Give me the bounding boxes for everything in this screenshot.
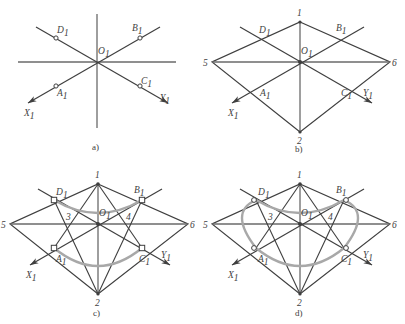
panel-d-label-b1: B1 <box>336 185 347 198</box>
panel-b-label-d1: D1 <box>258 25 271 38</box>
panel-b-rhombus <box>212 22 390 132</box>
panel-d-label-1: 1 <box>297 170 302 180</box>
panel-d-label-6: 6 <box>392 220 397 230</box>
panel-c-caption: c) <box>93 308 100 318</box>
panel-c: 1 2 5 6 3 4 D1 B1 A1 C1 O1 X1 Y1 c) <box>1 170 195 318</box>
panel-d-label-3: 3 <box>267 212 273 222</box>
panel-b-label-o1: O1 <box>301 46 313 59</box>
panel-c-label-1: 1 <box>95 170 100 180</box>
panel-d: 1 2 5 6 3 4 D1 B1 A1 C1 O1 X1 Y1 d) <box>203 170 397 318</box>
panel-c-label-x1: X1 <box>25 270 37 283</box>
panel-c-vertex-2-dot <box>96 292 99 295</box>
panel-a-label-a1: A1 <box>56 88 68 101</box>
panel-b-label-a1: A1 <box>259 88 271 101</box>
panel-c-label-3: 3 <box>65 212 71 222</box>
panel-d-center-dot <box>298 222 302 226</box>
isometric-ellipse-figure: D1 B1 A1 C1 O1 X1 Y1 a) <box>0 0 405 324</box>
panel-a-label-o1: O1 <box>98 46 110 59</box>
panel-d-label-5: 5 <box>203 220 208 230</box>
panel-d-label-x1: X1 <box>227 270 239 283</box>
panel-d-rhombus <box>212 184 390 294</box>
panel-d-label-c1: C1 <box>341 254 352 267</box>
panel-a-label-x1: X1 <box>23 108 35 121</box>
panel-a-label-c1: C1 <box>141 76 152 89</box>
panel-c-label-b1: B1 <box>134 185 145 198</box>
panel-a-point-b1-marker <box>138 36 142 40</box>
panel-c-vertex-1-dot <box>96 182 100 186</box>
panel-a-label-b1: B1 <box>132 23 143 36</box>
panel-b-label-1: 1 <box>297 8 302 18</box>
panel-c-label-2: 2 <box>95 298 100 308</box>
panel-d-label-4: 4 <box>328 212 333 222</box>
panel-d-label-d1: D1 <box>257 187 270 200</box>
panel-b-vertex-2-dot <box>298 130 301 133</box>
panel-c-rhombus <box>10 184 188 294</box>
panel-b-vertex-1-dot <box>298 20 301 23</box>
panel-a-label-d1: D1 <box>56 25 69 38</box>
panel-a-label-y1: Y1 <box>160 93 170 106</box>
panel-a-caption: a) <box>92 142 99 152</box>
panel-c-label-o1: O1 <box>99 208 111 221</box>
panel-b-caption: b) <box>295 144 303 154</box>
panel-d-label-o1: O1 <box>301 208 313 221</box>
panel-c-label-c1: C1 <box>139 254 150 267</box>
panel-b-label-b1: B1 <box>336 23 347 36</box>
panel-b: 1 2 5 6 D1 B1 A1 C1 O1 X1 Y1 b) <box>203 8 397 154</box>
panel-d-vertex-1-dot <box>298 182 302 186</box>
panel-b-center-dot <box>298 60 302 64</box>
panel-d-point-d1-marker <box>252 198 257 203</box>
panel-c-point-d1-marker <box>51 197 56 202</box>
panel-d-point-c1-marker <box>344 246 349 251</box>
panel-d-caption: d) <box>295 308 303 318</box>
panel-b-label-x1: X1 <box>227 108 239 121</box>
panel-c-point-b1-marker <box>139 197 144 202</box>
panel-d-vertex-2-dot <box>298 292 301 295</box>
panel-c-label-4: 4 <box>126 212 131 222</box>
panel-c-point-a1-marker <box>51 245 56 250</box>
panel-c-center-dot <box>96 222 100 226</box>
panel-a-point-d1-marker <box>54 36 58 40</box>
panel-b-label-5: 5 <box>203 58 208 68</box>
panel-a: D1 B1 A1 C1 O1 X1 Y1 a) <box>18 14 176 152</box>
panel-d-point-b1-marker <box>344 198 349 203</box>
panel-c-label-6: 6 <box>190 220 195 230</box>
panel-b-label-6: 6 <box>392 58 397 68</box>
panel-d-label-2: 2 <box>297 298 302 308</box>
panel-d-point-a1-marker <box>252 246 257 251</box>
panel-c-point-c1-marker <box>139 245 144 250</box>
panel-c-label-5: 5 <box>1 220 6 230</box>
